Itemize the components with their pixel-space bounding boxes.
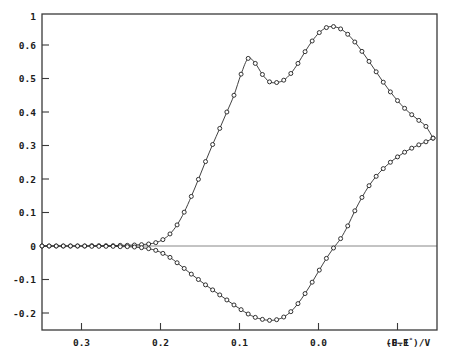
axis-tick-labels: 10.60.50.40.30.20.10-0.1-0.20.30.20.10.0… [13, 11, 409, 349]
data-point-marker [296, 302, 300, 306]
data-point-marker [396, 155, 400, 159]
data-point-marker [232, 93, 236, 97]
y-tick-label: 0.1 [19, 207, 36, 218]
data-point-marker [232, 303, 236, 307]
data-point-marker [168, 255, 172, 259]
data-point-marker [396, 99, 400, 103]
data-point-marker [189, 194, 193, 198]
data-point-marker [76, 244, 80, 248]
data-point-marker [431, 136, 435, 140]
curve-forward-scan [42, 26, 433, 246]
data-point-marker [175, 261, 179, 265]
x-tick-label: 0.1 [231, 337, 248, 348]
y-tick-label: -0.1 [13, 274, 36, 285]
x-axis-label: (E−E°)/V [386, 337, 431, 349]
data-point-marker [346, 32, 350, 36]
data-point-marker [154, 248, 158, 252]
data-point-marker [268, 80, 272, 84]
x-tick-label: 0.2 [152, 337, 169, 348]
data-point-marker [147, 242, 151, 246]
data-point-marker [218, 126, 222, 130]
data-point-marker [196, 278, 200, 282]
data-point-marker [303, 50, 307, 54]
x-tick-label: 0.0 [310, 337, 327, 348]
data-point-marker [360, 195, 364, 199]
data-point-marker [317, 31, 321, 35]
x-tick-label: 0.3 [73, 337, 90, 348]
data-point-marker [204, 160, 208, 164]
data-point-marker [132, 245, 136, 249]
data-point-marker [403, 150, 407, 154]
y-tick-label: -0.2 [13, 308, 36, 319]
data-point-marker [310, 280, 314, 284]
y-tick-label: 0.5 [19, 73, 36, 84]
data-point-marker [367, 59, 371, 63]
data-point-marker [175, 223, 179, 227]
data-point-marker [40, 244, 44, 248]
data-point-marker [218, 293, 222, 297]
data-point-marker [381, 167, 385, 171]
data-markers [40, 25, 435, 323]
data-point-marker [374, 70, 378, 74]
y-tick-label: 0.2 [19, 174, 36, 185]
y-tick-label: 0.3 [19, 140, 36, 151]
data-point-marker [417, 143, 421, 147]
data-point-marker [61, 244, 65, 248]
data-point-marker [381, 80, 385, 84]
data-point-marker [339, 237, 343, 241]
data-point-marker [260, 317, 264, 321]
data-point-marker [239, 72, 243, 76]
data-point-marker [104, 244, 108, 248]
curve-reverse-scan [42, 138, 433, 320]
data-point-marker [140, 246, 144, 250]
data-point-marker [289, 71, 293, 75]
data-point-marker [360, 49, 364, 53]
data-point-marker [225, 110, 229, 114]
data-point-marker [154, 241, 158, 245]
data-point-marker [125, 245, 129, 249]
data-point-marker [253, 61, 257, 65]
y-tick-label: 0.4 [19, 107, 36, 118]
y-tick-label: 0.6 [19, 40, 36, 51]
data-point-marker [353, 40, 357, 44]
data-point-marker [196, 177, 200, 181]
data-point-marker [317, 268, 321, 272]
data-point-marker [118, 245, 122, 249]
data-point-marker [403, 106, 407, 110]
axis-ticks [42, 45, 398, 330]
data-point-marker [83, 244, 87, 248]
data-point-marker [204, 283, 208, 287]
data-point-marker [424, 140, 428, 144]
data-point-marker [310, 39, 314, 43]
data-point-marker [239, 308, 243, 312]
data-point-marker [332, 246, 336, 250]
plot-frame [42, 14, 437, 330]
data-point-marker [346, 224, 350, 228]
data-point-marker [374, 174, 378, 178]
data-point-marker [275, 318, 279, 322]
data-point-marker [246, 312, 250, 316]
data-point-marker [97, 244, 101, 248]
cyclic-voltammogram-figure: 10.60.50.40.30.20.10-0.1-0.20.30.20.10.0… [0, 0, 451, 359]
data-point-marker [353, 209, 357, 213]
data-point-marker [417, 118, 421, 122]
data-point-marker [410, 146, 414, 150]
data-point-marker [189, 272, 193, 276]
data-point-marker [289, 310, 293, 314]
data-point-marker [324, 26, 328, 30]
data-point-marker [388, 160, 392, 164]
data-point-marker [388, 90, 392, 94]
data-point-marker [296, 61, 300, 65]
data-point-marker [211, 143, 215, 147]
data-point-marker [339, 27, 343, 31]
data-point-marker [168, 232, 172, 236]
data-point-marker [246, 56, 250, 60]
data-point-marker [282, 78, 286, 82]
plot-canvas: 10.60.50.40.30.20.10-0.1-0.20.30.20.10.0… [0, 0, 451, 359]
y-tick-label: 1 [30, 11, 36, 22]
data-point-marker [253, 315, 257, 319]
data-point-marker [282, 315, 286, 319]
data-point-marker [260, 72, 264, 76]
data-point-marker [225, 298, 229, 302]
data-point-marker [324, 256, 328, 260]
